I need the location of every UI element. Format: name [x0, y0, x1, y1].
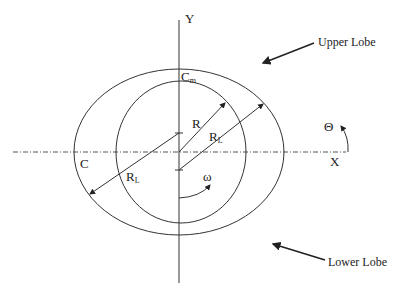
r-label: R: [192, 117, 201, 130]
omega-label: ω: [203, 170, 212, 183]
upper-lobe-arrow: [263, 43, 314, 63]
c-label: C: [80, 157, 89, 170]
upper-lobe-label: Upper Lobe: [318, 36, 376, 48]
y-axis-label: Y: [185, 12, 194, 25]
rl-right-label: RL: [209, 130, 223, 145]
omega-arrow: [179, 185, 210, 198]
x-axis-label: X: [330, 155, 339, 168]
lower-lobe-arrow: [273, 244, 325, 260]
lower-lobe-label: Lower Lobe: [328, 256, 387, 268]
rl-left-label: RL: [126, 170, 140, 185]
theta-arrow: [341, 126, 348, 152]
cm-label: Cm: [181, 70, 196, 85]
theta-label: Θ: [324, 120, 333, 133]
